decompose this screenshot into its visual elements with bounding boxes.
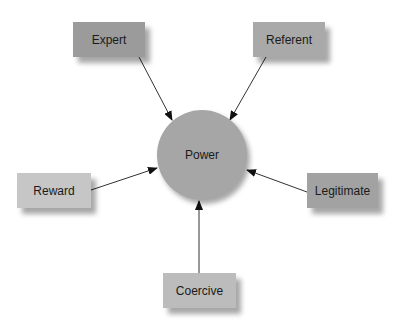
expert-label: Expert xyxy=(92,33,127,47)
reward-node: Reward xyxy=(17,173,91,208)
edge-reward-power xyxy=(91,168,157,190)
power-node: Power xyxy=(157,110,247,200)
edge-legitimate-power xyxy=(247,170,307,192)
coercive-node: Coercive xyxy=(163,273,236,308)
power-label: Power xyxy=(185,148,219,162)
legitimate-label: Legitimate xyxy=(315,184,370,198)
referent-label: Referent xyxy=(266,33,312,47)
coercive-label: Coercive xyxy=(176,284,223,298)
legitimate-node: Legitimate xyxy=(307,173,378,208)
expert-node: Expert xyxy=(73,22,145,57)
reward-label: Reward xyxy=(33,184,74,198)
referent-node: Referent xyxy=(253,22,325,57)
edge-referent-power xyxy=(230,57,266,120)
edge-expert-power xyxy=(139,57,172,120)
